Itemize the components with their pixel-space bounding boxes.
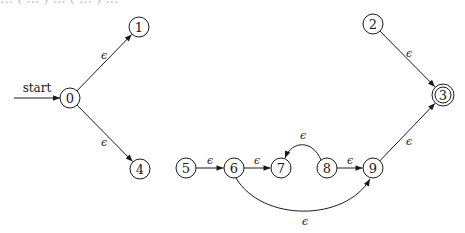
state-label: 5 — [182, 161, 190, 176]
state-label: 6 — [230, 161, 238, 176]
state-1: 1 — [129, 17, 149, 37]
start-arrow: start — [14, 81, 60, 98]
nfa-diagram: ϵϵϵϵϵϵϵϵϵ start 0142356789 — [0, 0, 465, 233]
edge-label-8-to-9: ϵ — [347, 154, 353, 167]
edge-label-6-to-7: ϵ — [254, 154, 260, 167]
edge-8-to-7 — [285, 145, 321, 160]
state-label: 0 — [66, 91, 74, 106]
edge-9-to-3 — [380, 103, 435, 160]
edge-label-2-to-3: ϵ — [406, 47, 412, 60]
edge-label-5-to-6: ϵ — [207, 154, 213, 167]
start-label: start — [23, 81, 52, 95]
edge-label-0-to-4: ϵ — [101, 136, 107, 149]
state-label: 3 — [439, 88, 447, 103]
state-label: 9 — [369, 161, 377, 176]
state-2: 2 — [363, 14, 383, 34]
edge-label-9-to-3: ϵ — [406, 135, 412, 148]
state-5: 5 — [176, 158, 196, 178]
state-8: 8 — [317, 158, 337, 178]
state-label: 8 — [323, 161, 331, 176]
state-3-accepting: 3 — [432, 84, 454, 106]
state-label: 1 — [135, 20, 143, 35]
edge-0-to-4 — [77, 105, 133, 161]
edge-label-6-to-9: ϵ — [302, 215, 308, 228]
state-0: 0 — [60, 88, 80, 108]
edge-0-to-1 — [77, 35, 132, 91]
state-4: 4 — [130, 159, 150, 179]
state-label: 2 — [369, 17, 377, 32]
state-7: 7 — [271, 158, 291, 178]
state-label: 4 — [136, 162, 144, 177]
state-9: 9 — [363, 158, 383, 178]
state-6: 6 — [224, 158, 244, 178]
state-label: 7 — [277, 161, 285, 176]
edge-label-8-to-7: ϵ — [300, 129, 306, 142]
edge-6-to-9 — [236, 178, 370, 211]
edge-label-0-to-1: ϵ — [101, 49, 107, 62]
edges: ϵϵϵϵϵϵϵϵϵ — [77, 31, 435, 227]
